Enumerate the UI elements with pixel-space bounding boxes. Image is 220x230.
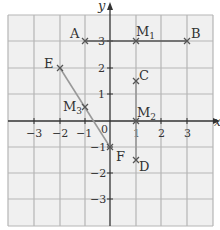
point-label-F: F (116, 149, 125, 164)
y-tick-label: 2 (98, 62, 105, 75)
x-axis-label: x (214, 115, 220, 129)
x-tick-label: 3 (184, 127, 191, 140)
x-tick-label: −2 (52, 127, 68, 140)
x-tick-label: 2 (158, 127, 165, 140)
y-tick-label: −3 (90, 193, 106, 206)
point-label-E: E (44, 56, 54, 71)
y-axis-arrow-icon (107, 2, 113, 10)
coordinate-grid: y x −3 −2 −1 1 2 3 0 3 2 1 −1 −2 −3 A B … (0, 0, 220, 230)
point-label-A: A (69, 26, 80, 41)
y-axis-label: y (97, 0, 106, 13)
y-tick-label: 1 (98, 88, 105, 101)
x-tick-label: −3 (26, 127, 42, 140)
point-label-B: B (191, 26, 201, 41)
point-label-D: D (139, 159, 149, 174)
y-tick-label: −2 (90, 167, 106, 180)
x-tick-label: −1 (76, 127, 92, 140)
point-label-C: C (139, 68, 149, 83)
y-tick-label: −1 (90, 141, 106, 154)
